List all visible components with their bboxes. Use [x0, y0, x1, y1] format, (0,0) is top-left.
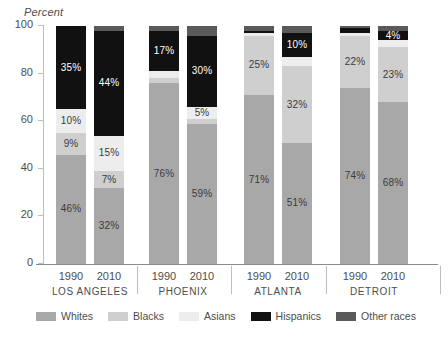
bar-segment-asians: [244, 33, 274, 35]
stacked-bar-chart: Percent 020406080100 46%9%10%35%32%7%15%…: [0, 0, 448, 338]
x-axis-year-label: 2010: [363, 270, 423, 282]
segment-value-label: 32%: [287, 100, 307, 110]
legend-swatch-icon: [36, 312, 56, 321]
segment-value-label: 25%: [249, 60, 269, 70]
segment-value-label: 10%: [61, 116, 81, 126]
bar-segment-other-races: [94, 26, 124, 31]
segment-value-label: 44%: [99, 78, 119, 88]
bar-segment-blacks: [187, 119, 217, 124]
bar-segment-asians: 5%: [187, 107, 217, 119]
legend-swatch-icon: [179, 312, 199, 321]
legend-label: Hispanics: [276, 310, 322, 322]
bar-segment-whites: 71%: [244, 95, 274, 264]
x-axis-year-label: 2010: [267, 270, 327, 282]
bar-segment-blacks: 25%: [244, 36, 274, 96]
legend-swatch-icon: [251, 312, 271, 321]
segment-value-label: 4%: [386, 31, 401, 41]
bar-segment-whites: 32%: [94, 188, 124, 264]
bar-segment-hispanics: 4%: [378, 31, 408, 41]
bar-segment-blacks: 23%: [378, 47, 408, 102]
bar-segment-blacks: 32%: [282, 66, 312, 142]
segment-value-label: 17%: [154, 46, 174, 56]
bar-segment-hispanics: 35%: [56, 26, 86, 109]
segment-value-label: 7%: [102, 175, 117, 185]
y-axis-tick-label: 80: [0, 66, 33, 78]
bar-segment-asians: [378, 40, 408, 47]
bar-segment-asians: [340, 33, 370, 35]
bar-segment-blacks: 9%: [56, 133, 86, 154]
legend-item-whites[interactable]: Whites: [36, 310, 93, 322]
x-axis-city-label: DETROIT: [314, 286, 434, 297]
bar-segment-hispanics: [340, 28, 370, 33]
bar-segment-other-races: [340, 26, 370, 28]
legend-item-other-races[interactable]: Other races: [336, 310, 416, 322]
bar-atlanta-2010: 51%32%10%: [282, 26, 312, 264]
bar-segment-other-races: [187, 26, 217, 36]
bar-segment-other-races: [378, 26, 408, 31]
segment-value-label: 35%: [61, 63, 81, 73]
plot-area: 46%9%10%35%32%7%15%44%76%17%59%5%30%71%2…: [44, 26, 436, 264]
group-separator: [440, 266, 441, 294]
segment-value-label: 23%: [383, 70, 403, 80]
bar-segment-asians: [282, 57, 312, 67]
legend-item-asians[interactable]: Asians: [179, 310, 236, 322]
bar-segment-asians: 10%: [56, 109, 86, 133]
x-axis-year-label: 2010: [79, 270, 139, 282]
bar-segment-whites: 76%: [149, 83, 179, 264]
segment-value-label: 5%: [195, 108, 210, 118]
bar-segment-blacks: 22%: [340, 36, 370, 88]
bar-segment-hispanics: [244, 31, 274, 33]
y-axis-tick-label: 100: [0, 18, 33, 30]
y-axis-tick-label: 0: [0, 256, 33, 268]
bar-segment-whites: 51%: [282, 143, 312, 264]
legend-label: Asians: [204, 310, 236, 322]
bar-segment-asians: [149, 71, 179, 78]
bar-segment-asians: 15%: [94, 136, 124, 172]
y-axis-tick-label: 40: [0, 161, 33, 173]
bar-segment-other-races: [244, 26, 274, 31]
bar-los-angeles-2010: 32%7%15%44%: [94, 26, 124, 264]
bar-phoenix-2010: 59%5%30%: [187, 26, 217, 264]
bar-phoenix-1990: 76%17%: [149, 26, 179, 264]
segment-value-label: 76%: [154, 169, 174, 179]
bar-segment-hispanics: 10%: [282, 33, 312, 57]
bar-los-angeles-1990: 46%9%10%35%: [56, 26, 86, 264]
bar-detroit-1990: 74%22%: [340, 26, 370, 264]
bar-segment-hispanics: 44%: [94, 31, 124, 136]
segment-value-label: 68%: [383, 178, 403, 188]
segment-value-label: 10%: [287, 40, 307, 50]
bar-segment-hispanics: 30%: [187, 36, 217, 107]
segment-value-label: 59%: [192, 189, 212, 199]
segment-value-label: 30%: [192, 66, 212, 76]
bar-segment-blacks: [149, 78, 179, 83]
bar-segment-blacks: 7%: [94, 171, 124, 188]
bar-segment-hispanics: 17%: [149, 31, 179, 71]
legend-label: Other races: [361, 310, 416, 322]
bar-segment-other-races: [282, 26, 312, 33]
segment-value-label: 9%: [64, 139, 79, 149]
segment-value-label: 15%: [99, 148, 119, 158]
bar-segment-whites: 46%: [56, 155, 86, 264]
legend-swatch-icon: [336, 312, 356, 321]
x-axis-line: [36, 264, 438, 265]
chart-legend: WhitesBlacksAsiansHispanicsOther races: [36, 310, 423, 322]
segment-value-label: 71%: [249, 175, 269, 185]
y-axis-title: Percent: [24, 6, 63, 18]
bar-segment-whites: 59%: [187, 124, 217, 264]
bar-segment-whites: 68%: [378, 102, 408, 264]
segment-value-label: 46%: [61, 204, 81, 214]
y-axis-tick-label: 20: [0, 208, 33, 220]
legend-label: Blacks: [133, 310, 164, 322]
y-axis-tick-label: 60: [0, 113, 33, 125]
segment-value-label: 74%: [345, 171, 365, 181]
bar-atlanta-1990: 71%25%: [244, 26, 274, 264]
legend-label: Whites: [61, 310, 93, 322]
bar-segment-whites: 74%: [340, 88, 370, 264]
segment-value-label: 51%: [287, 198, 307, 208]
bar-segment-other-races: [149, 26, 179, 31]
segment-value-label: 32%: [99, 221, 119, 231]
legend-item-hispanics[interactable]: Hispanics: [251, 310, 322, 322]
legend-item-blacks[interactable]: Blacks: [108, 310, 164, 322]
bar-detroit-2010: 68%23%4%: [378, 26, 408, 264]
x-axis-year-label: 2010: [172, 270, 232, 282]
